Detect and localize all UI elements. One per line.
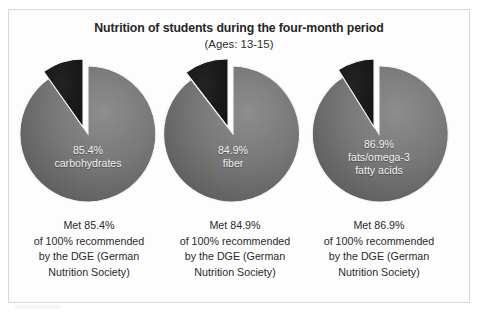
- caption-line: of 100% recommended: [301, 234, 457, 250]
- pie-svg-carbohydrates: [11, 57, 165, 209]
- caption-line: of 100% recommended: [157, 234, 313, 250]
- scan-edge-artifact: [14, 305, 60, 309]
- pie-chart-fats-omega3: 86.9% fats/omega-3 fatty acids: [302, 57, 456, 209]
- caption-fats-omega3: Met 86.9% of 100% recommended by the DGE…: [301, 218, 457, 280]
- pie-slice-met-carbohydrates: [20, 66, 156, 202]
- pie-svg-fiber: [156, 57, 310, 209]
- caption-line: Nutrition Society): [157, 265, 313, 281]
- chart-subtitle: (Ages: 13-15): [9, 37, 469, 52]
- caption-fiber: Met 84.9% of 100% recommended by the DGE…: [157, 218, 313, 280]
- caption-line: of 100% recommended: [11, 234, 167, 250]
- pie-svg-fats-omega3: [302, 57, 456, 209]
- caption-line: Met 84.9%: [157, 218, 313, 234]
- captions-row: Met 85.4% of 100% recommended by the DGE…: [9, 218, 469, 304]
- caption-line: by the DGE (German: [157, 249, 313, 265]
- caption-line: Nutrition Society): [11, 265, 167, 281]
- pie-slice-met-fiber: [164, 66, 300, 202]
- caption-line: by the DGE (German: [11, 249, 167, 265]
- title-block: Nutrition of students during the four-mo…: [9, 21, 469, 52]
- caption-line: Nutrition Society): [301, 265, 457, 281]
- caption-line: by the DGE (German: [301, 249, 457, 265]
- chart-title: Nutrition of students during the four-mo…: [9, 21, 469, 36]
- caption-carbohydrates: Met 85.4% of 100% recommended by the DGE…: [11, 218, 167, 280]
- pie-slice-met-fats-omega3: [312, 66, 448, 202]
- chart-figure-frame: Nutrition of students during the four-mo…: [8, 9, 470, 303]
- caption-line: Met 85.4%: [11, 218, 167, 234]
- caption-line: Met 86.9%: [301, 218, 457, 234]
- pie-chart-carbohydrates: 85.4% carbohydrates: [11, 57, 165, 209]
- pie-charts-row: 85.4% carbohydrates: [9, 57, 469, 209]
- pie-chart-fiber: 84.9% fiber: [156, 57, 310, 209]
